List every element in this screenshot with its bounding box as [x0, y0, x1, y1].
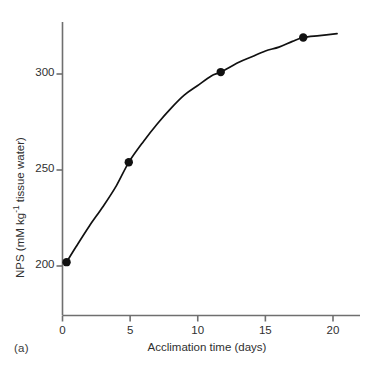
panel-label: (a)	[14, 342, 29, 354]
x-tick-label: 0	[48, 324, 78, 336]
chart-plot-svg	[0, 0, 383, 370]
data-point-marker	[62, 258, 70, 266]
y-axis-title-main: NPS (mM kg	[14, 213, 26, 278]
y-axis-title-exponent: -1	[12, 205, 21, 212]
x-tick-label: 10	[183, 324, 213, 336]
data-point-marker	[125, 158, 133, 166]
x-tick-label: 5	[115, 324, 145, 336]
fit-curve-path	[67, 34, 338, 262]
y-axis-title-wrap: NPS (mM kg-1 tissue water)	[14, 278, 32, 370]
data-point-marker	[217, 68, 225, 76]
chart-figure: 200250300 05101520 NPS (mM kg-1 tissue w…	[0, 0, 383, 370]
data-point-markers	[62, 33, 307, 266]
axes-group	[63, 22, 361, 316]
x-axis-title: Acclimation time (days)	[62, 341, 352, 353]
x-tick-label: 15	[250, 324, 280, 336]
x-tick-label: 20	[318, 324, 348, 336]
x-tick-marks	[63, 316, 334, 322]
y-tick-marks	[57, 74, 63, 266]
data-point-marker	[299, 33, 307, 41]
y-axis-title-tail: tissue water)	[14, 137, 26, 205]
y-axis-title: NPS (mM kg-1 tissue water)	[14, 38, 26, 278]
